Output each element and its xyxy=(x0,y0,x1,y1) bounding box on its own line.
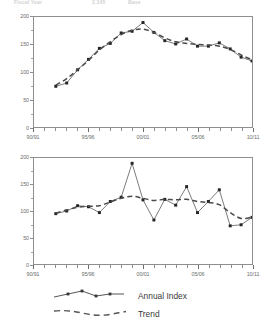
trend-line xyxy=(56,29,252,85)
x-tick-minor xyxy=(242,128,243,131)
x-tick-label: 05/06 xyxy=(192,134,205,140)
chart-panel-lower: 050100150200 90/9195/9600/0105/0610/11 xyxy=(0,145,269,288)
x-tick-minor xyxy=(209,265,210,268)
x-tick-minor xyxy=(132,128,133,131)
x-tick-minor xyxy=(66,265,67,268)
data-point-marker xyxy=(196,45,199,48)
x-tick-minor xyxy=(121,265,122,268)
x-tick-major xyxy=(88,128,89,132)
data-point-marker xyxy=(251,60,252,63)
data-point-marker xyxy=(196,211,199,214)
x-tick-minor xyxy=(154,265,155,268)
data-point-marker xyxy=(218,188,221,191)
y-minor-tick xyxy=(31,114,33,115)
data-point-marker xyxy=(65,82,68,85)
x-tick-minor xyxy=(187,265,188,268)
y-tick-mark xyxy=(30,157,33,158)
legend-label-annual-index: Annual Index xyxy=(138,291,187,301)
x-tick-minor xyxy=(55,265,56,268)
y-tick-label: 0 xyxy=(3,262,29,268)
y-tick-label: 50 xyxy=(3,97,29,103)
x-tick-label: 10/11 xyxy=(247,134,260,140)
x-tick-minor xyxy=(220,128,221,131)
x-tick-minor xyxy=(132,265,133,268)
chart-legend: Annual Index Trend xyxy=(0,288,269,332)
x-tick-minor xyxy=(44,128,45,131)
x-tick-minor xyxy=(220,265,221,268)
x-tick-label: 95/96 xyxy=(82,134,95,140)
x-tick-label: 00/01 xyxy=(137,134,150,140)
x-tick-minor xyxy=(165,128,166,131)
data-point-marker xyxy=(218,41,221,44)
legend-label-trend: Trend xyxy=(138,309,160,319)
y-tick-mark xyxy=(30,16,33,17)
y-tick-label: 0 xyxy=(3,125,29,131)
data-point-marker xyxy=(185,185,188,188)
x-tick-major xyxy=(33,128,34,132)
data-point-marker xyxy=(109,200,112,203)
data-point-marker xyxy=(152,219,155,222)
y-tick-label: 100 xyxy=(3,208,29,214)
x-tick-minor xyxy=(165,265,166,268)
x-tick-major xyxy=(253,265,254,269)
x-tick-minor xyxy=(44,265,45,268)
data-point-marker xyxy=(131,162,134,165)
y-tick-label: 150 xyxy=(3,181,29,187)
x-tick-minor xyxy=(231,128,232,131)
x-tick-minor xyxy=(77,128,78,131)
y-tick-mark xyxy=(30,184,33,185)
x-tick-minor xyxy=(110,128,111,131)
x-tick-minor xyxy=(176,265,177,268)
y-tick-mark xyxy=(30,100,33,101)
data-point-marker xyxy=(76,204,79,207)
x-tick-minor xyxy=(66,128,67,131)
x-tick-major xyxy=(198,265,199,269)
x-tick-minor xyxy=(242,265,243,268)
y-minor-tick xyxy=(31,30,33,31)
y-tick-mark xyxy=(30,238,33,239)
y-minor-tick xyxy=(31,225,33,226)
chart-panel-upper: 050100150200 90/9195/9600/0105/0610/11 xyxy=(0,0,269,145)
legend-swatch-dashed-line-icon xyxy=(52,306,130,322)
data-point-marker xyxy=(240,223,243,226)
data-point-marker xyxy=(174,204,177,207)
x-tick-minor xyxy=(110,265,111,268)
x-tick-minor xyxy=(187,128,188,131)
plot-area-lower xyxy=(33,157,253,265)
data-point-marker xyxy=(174,42,177,45)
x-tick-label: 05/06 xyxy=(192,271,205,277)
x-tick-minor xyxy=(176,128,177,131)
x-tick-label: 10/11 xyxy=(247,271,260,277)
data-point-marker xyxy=(163,39,166,42)
annual-index-line xyxy=(56,163,252,226)
x-tick-major xyxy=(198,128,199,132)
x-tick-minor xyxy=(99,265,100,268)
y-minor-tick xyxy=(31,198,33,199)
x-tick-label: 95/96 xyxy=(82,271,95,277)
y-minor-tick xyxy=(31,58,33,59)
y-tick-label: 200 xyxy=(3,154,29,160)
x-tick-label: 90/91 xyxy=(27,271,40,277)
y-tick-label: 200 xyxy=(3,13,29,19)
plot-area-upper xyxy=(33,16,253,128)
data-point-marker xyxy=(229,224,232,227)
data-point-marker xyxy=(251,216,252,219)
y-tick-label: 50 xyxy=(3,235,29,241)
x-tick-minor xyxy=(209,128,210,131)
x-tick-label: 90/91 xyxy=(27,134,40,140)
data-point-marker xyxy=(185,38,188,41)
y-tick-label: 150 xyxy=(3,41,29,47)
x-tick-major xyxy=(253,128,254,132)
y-tick-label: 100 xyxy=(3,69,29,75)
y-minor-tick xyxy=(31,171,33,172)
x-tick-minor xyxy=(154,128,155,131)
x-tick-major xyxy=(88,265,89,269)
y-minor-tick xyxy=(31,252,33,253)
x-tick-major xyxy=(33,265,34,269)
x-tick-minor xyxy=(121,128,122,131)
y-minor-tick xyxy=(31,86,33,87)
x-tick-minor xyxy=(99,128,100,131)
x-tick-minor xyxy=(231,265,232,268)
legend-swatch-solid-line-icon xyxy=(52,288,130,304)
x-tick-minor xyxy=(77,265,78,268)
